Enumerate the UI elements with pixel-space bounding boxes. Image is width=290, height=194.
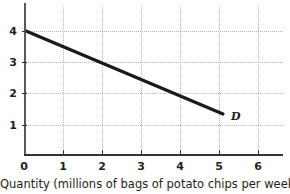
x-tick-label-5: 5 [211, 161, 227, 172]
x-tick-label-2: 2 [94, 161, 110, 172]
x-tick-5 [219, 150, 220, 154]
y-tick-3 [22, 62, 27, 63]
y-axis [24, 3, 26, 156]
series-label-d: D [231, 110, 241, 123]
y-tick-label-3: 3 [5, 57, 17, 68]
x-axis-title: Quantity (millions of bags of potato chi… [0, 177, 290, 191]
x-tick-3 [141, 150, 142, 154]
y-tick-label-2: 2 [5, 88, 17, 99]
x-tick-label-6: 6 [250, 161, 266, 172]
x-tick-6 [258, 150, 259, 154]
y-tick-1 [22, 125, 27, 126]
x-tick-label-3: 3 [133, 161, 149, 172]
y-tick-label-1: 1 [5, 120, 17, 131]
x-tick-1 [63, 150, 64, 154]
x-tick-2 [102, 150, 103, 154]
x-tick-4 [180, 150, 181, 154]
x-tick-label-1: 1 [55, 161, 71, 172]
demand-curve-chart: D 0 1 2 3 4 5 6 4 3 2 1 Quantity (millio… [0, 0, 290, 194]
x-tick-label-4: 4 [172, 161, 188, 172]
x-axis [24, 154, 283, 156]
plot-area: D 0 1 2 3 4 5 6 4 3 2 1 Quantity (millio… [0, 0, 290, 194]
y-tick-2 [22, 93, 27, 94]
y-tick-label-4: 4 [5, 26, 17, 37]
y-tick-4 [22, 31, 27, 32]
x-tick-label-0: 0 [16, 161, 32, 172]
